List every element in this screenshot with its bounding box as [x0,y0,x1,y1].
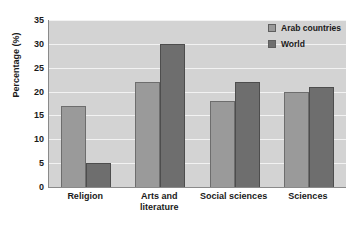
y-tick-label: 5 [18,159,44,168]
bar-group [198,20,272,187]
legend: Arab countriesWorld [268,24,341,48]
bar [135,82,160,187]
legend-swatch-icon [268,40,276,48]
y-axis-tick-labels: 05101520253035 [18,20,44,187]
y-tick-label: 20 [18,87,44,96]
y-tick-label: 35 [18,16,44,25]
legend-label: Arab countries [281,24,341,33]
bar [160,44,185,187]
bar [309,87,334,187]
y-tick-label: 10 [18,135,44,144]
y-tick-label: 30 [18,39,44,48]
bar [61,106,86,187]
y-tick-label: 15 [18,111,44,120]
x-tick-label: Social sciences [197,191,271,213]
legend-item[interactable]: World [268,40,341,49]
bar-group [123,20,197,187]
legend-swatch-icon [268,24,276,32]
bar [86,163,111,187]
x-tick-label: Religion [48,191,122,213]
legend-label: World [281,40,305,49]
bar [235,82,260,187]
y-tick-label: 25 [18,63,44,72]
bar [284,92,309,187]
x-axis-tick-labels: ReligionArts andliteratureSocial science… [48,191,345,213]
bar [210,101,235,187]
bar-chart: Percentage (%) 05101520253035 Arab count… [0,0,354,232]
bar-group [49,20,123,187]
y-tick-label: 0 [18,183,44,192]
x-tick-label: Sciences [271,191,345,213]
x-tick-label: Arts andliterature [122,191,196,213]
legend-item[interactable]: Arab countries [268,24,341,33]
